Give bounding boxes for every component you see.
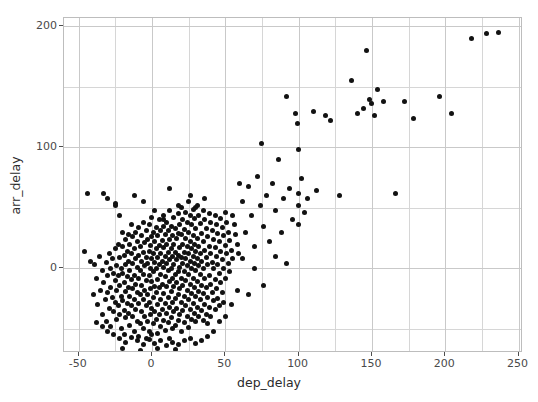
data-point (130, 314, 135, 319)
data-point (323, 113, 328, 118)
data-point (372, 113, 377, 118)
gridline-y-major (64, 147, 521, 148)
scatter-plot-figure: -50050100150200250 0100200 dep_delay arr… (0, 0, 538, 402)
data-point (163, 274, 168, 279)
data-point (381, 99, 386, 104)
data-point (205, 334, 210, 339)
data-point (127, 323, 132, 328)
data-point (193, 205, 198, 210)
data-point (180, 283, 185, 288)
x-tick-mark (151, 352, 152, 356)
y-tick-mark (59, 267, 63, 268)
data-point (157, 312, 162, 317)
x-tick-label: 0 (147, 357, 154, 370)
gridline-x-minor (482, 18, 483, 351)
data-point (177, 222, 182, 227)
data-point (279, 230, 284, 235)
data-point (437, 94, 442, 99)
x-tick-label: 200 (434, 357, 455, 370)
plot-panel (63, 17, 522, 352)
data-point (98, 288, 103, 293)
data-point (227, 269, 232, 274)
data-point (369, 101, 374, 106)
data-point (220, 225, 225, 230)
data-point (207, 305, 212, 310)
data-point (138, 348, 143, 352)
data-point (328, 118, 333, 123)
data-point (129, 335, 134, 340)
data-point (218, 216, 223, 221)
data-point (208, 282, 213, 287)
data-point (104, 260, 109, 265)
data-point (139, 233, 144, 238)
gridline-y-major (64, 268, 521, 269)
data-point (144, 278, 149, 283)
y-axis-title: arr_delay (6, 0, 24, 370)
data-point (204, 226, 209, 231)
data-point (296, 147, 301, 152)
data-point (151, 295, 156, 300)
data-point (252, 266, 257, 271)
data-point (104, 319, 109, 324)
gridline-y-major (64, 26, 521, 27)
data-point (226, 261, 231, 266)
data-point (147, 337, 152, 342)
data-point (223, 276, 228, 281)
data-point (91, 292, 96, 297)
data-point (145, 292, 150, 297)
x-tick-label: 150 (360, 357, 381, 370)
data-point (484, 31, 489, 36)
data-point (217, 239, 222, 244)
data-point (302, 210, 307, 215)
y-axis-title-text: arr_delay (8, 156, 23, 214)
data-point (198, 221, 203, 226)
data-point (204, 255, 209, 260)
data-point (117, 336, 122, 341)
data-point (105, 290, 110, 295)
data-point (375, 87, 380, 92)
data-point (167, 186, 172, 191)
data-point (123, 315, 128, 320)
data-point (210, 290, 215, 295)
data-point (141, 199, 146, 204)
data-point (114, 317, 119, 322)
data-point (193, 319, 198, 324)
data-point (154, 317, 159, 322)
data-point (223, 243, 228, 248)
data-point (224, 220, 229, 225)
y-tick-label: 200 (36, 19, 57, 32)
data-point (311, 109, 316, 114)
data-point (132, 193, 137, 198)
data-point (166, 295, 171, 300)
data-point (355, 111, 360, 116)
data-point (215, 296, 220, 301)
data-point (364, 48, 369, 53)
data-point (186, 199, 191, 204)
data-point (149, 215, 154, 220)
data-point (305, 196, 310, 201)
data-point (179, 329, 184, 334)
data-point (144, 255, 149, 260)
data-point (267, 239, 272, 244)
data-point (218, 249, 223, 254)
data-point (176, 203, 181, 208)
data-point (227, 238, 232, 243)
data-point (105, 273, 110, 278)
gridline-y-minor (64, 87, 521, 88)
data-point (147, 300, 152, 305)
data-point (469, 36, 474, 41)
data-point (270, 181, 275, 186)
data-point (136, 301, 141, 306)
data-point (264, 193, 269, 198)
data-point (243, 230, 248, 235)
gridline-x-minor (335, 18, 336, 351)
data-point (101, 191, 106, 196)
data-point (155, 331, 160, 336)
x-tick-label: -50 (69, 357, 87, 370)
data-point (94, 276, 99, 281)
data-point (205, 321, 210, 326)
data-point (226, 230, 231, 235)
data-point (155, 346, 160, 351)
gridline-x-minor (262, 18, 263, 351)
data-point (136, 276, 141, 281)
